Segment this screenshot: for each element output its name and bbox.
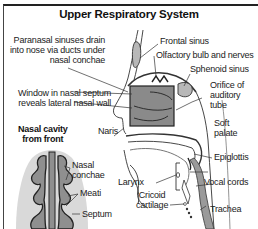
label-frontal-sinus: Frontal sinus <box>160 36 209 46</box>
label-vocal-cords: Vocal cords <box>204 177 248 187</box>
label-soft-palate: Soft palate <box>214 118 237 138</box>
label-sphenoid-sinus: Sphenoid sinus <box>190 64 249 74</box>
larynx-trachea <box>176 158 214 229</box>
label-septum: Septum <box>82 209 112 219</box>
label-naris: Naris <box>98 126 118 136</box>
inset-title: Nasal cavity from front <box>18 124 68 144</box>
label-meati: Meati <box>80 188 101 198</box>
label-orifice-auditory-tube: Orifice of auditory tube <box>210 80 244 110</box>
label-cricoid-cartilage: Cricoid cartilage <box>136 190 168 210</box>
label-epiglottis: Epiglottis <box>214 152 249 162</box>
label-window-nasal-septum: Window in nasal septum reveals lateral n… <box>18 88 111 108</box>
label-olfactory-bulb: Olfactory bulb and nerves <box>156 50 254 60</box>
label-paranasal-sinuses: Paranasal sinuses drain into nose via du… <box>10 35 105 65</box>
label-nasal-conchae: Nasal conchae <box>72 160 105 180</box>
label-larynx: Larynx <box>118 177 144 187</box>
label-trachea: Trachea <box>210 204 241 214</box>
